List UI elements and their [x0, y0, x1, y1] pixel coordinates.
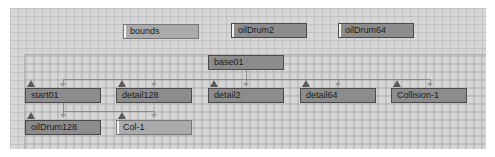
input-arrow-icon — [335, 83, 341, 87]
expand-triangle-icon[interactable] — [27, 80, 35, 87]
node-label: oilDrum2 — [238, 25, 274, 35]
node-oildrum64[interactable]: oilDrum64 — [338, 23, 414, 38]
node-label: detail2 — [214, 90, 241, 100]
input-arrow-icon — [60, 83, 66, 87]
connector-line — [63, 111, 155, 112]
expand-triangle-icon[interactable] — [302, 80, 310, 87]
node-detail2[interactable]: detail2 — [208, 88, 284, 103]
node-collision-1[interactable]: Collision-1 — [391, 88, 467, 103]
expand-triangle-icon[interactable] — [210, 80, 218, 87]
expand-triangle-icon[interactable] — [393, 80, 401, 87]
node-oildrum2[interactable]: oilDrum2 — [231, 23, 307, 38]
expand-triangle-icon[interactable] — [27, 112, 35, 119]
node-label: Collision-1 — [397, 90, 439, 100]
node-label: bounds — [130, 26, 160, 36]
node-label: oilDrum128 — [31, 122, 77, 132]
connector-line — [246, 70, 247, 79]
node-detail64[interactable]: detail64 — [300, 88, 376, 103]
node-col-1[interactable]: Col-1 — [116, 120, 192, 135]
expand-triangle-icon[interactable] — [118, 112, 126, 119]
node-label: detail128 — [122, 90, 159, 100]
node-detail128[interactable]: detail128 — [116, 88, 192, 103]
node-label: detail64 — [306, 90, 338, 100]
node-oildrum128[interactable]: oilDrum128 — [25, 120, 101, 135]
node-base01[interactable]: base01 — [208, 55, 284, 70]
input-arrow-icon — [243, 83, 249, 87]
input-arrow-icon — [151, 114, 157, 118]
input-arrow-icon — [427, 83, 433, 87]
node-label: Col-1 — [123, 122, 145, 132]
input-arrow-icon — [60, 114, 66, 118]
node-start01[interactable]: start01 — [25, 88, 101, 103]
input-arrow-icon — [151, 83, 157, 87]
node-label: start01 — [31, 90, 59, 100]
node-label: oilDrum64 — [345, 25, 386, 35]
node-label: base01 — [214, 57, 244, 67]
expand-triangle-icon[interactable] — [118, 80, 126, 87]
node-bounds[interactable]: bounds — [123, 24, 199, 39]
connector-line — [63, 103, 64, 111]
